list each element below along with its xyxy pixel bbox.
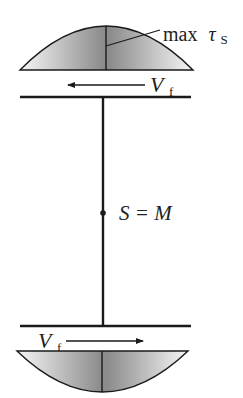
bottom-stress-distribution [17, 351, 188, 392]
top-force-label: V f [150, 72, 174, 99]
centroid-dot [100, 210, 106, 216]
top-stress-distribution: max τ S [20, 23, 228, 70]
center-label: S = M [119, 201, 173, 225]
shear-diagram: max τ S V f S = M V f [0, 0, 243, 398]
max-stress-label: max τ S [163, 23, 228, 47]
top-force: V f [68, 72, 174, 99]
